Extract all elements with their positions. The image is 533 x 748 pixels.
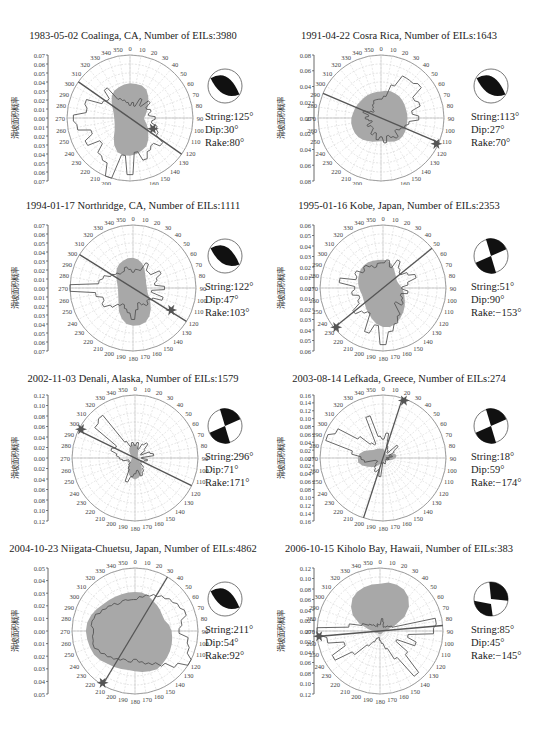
angle-tick-label: 170 [142,696,152,703]
angle-tick-label: 240 [316,150,326,157]
angle-tick-label: 270 [60,455,70,462]
angle-tick-label: 0 [379,45,382,52]
angle-tick-label: 230 [75,329,85,336]
angle-tick-label: 270 [305,628,315,635]
angle-tick-label: 260 [307,127,317,134]
angle-tick-label: 140 [175,508,185,515]
focal-mechanism-params: String:51°Dip:90°Rake:−153° [471,280,521,319]
panel-kobe: 1995-01-16 Kobe, Japan, Number of EILs:2… [266,185,532,370]
angle-tick-label: 120 [191,490,201,497]
y-tick-label: 0.04 [300,243,312,250]
y-tick-label: 0.12 [300,691,311,698]
angle-tick-label: 290 [309,604,319,611]
angle-tick-label: 10 [392,216,399,223]
y-tick-label: 0.06 [300,659,312,666]
focal-mechanism-params: String:18°Dip:59°Rake:−174° [471,450,521,489]
y-tick-label: 0.02 [300,264,311,271]
y-tick-label: 0.14 [300,399,312,406]
y-tick-label: 0.04 [34,434,46,441]
angle-tick-label: 70 [444,91,451,98]
landslide-area-fill [116,258,151,326]
focal-dip: Dip:71° [205,463,254,476]
angle-tick-label: 90 [448,115,455,122]
angle-tick-label: 220 [80,168,90,175]
angle-tick-label: 90 [447,628,454,635]
focal-dip: Dip:45° [471,636,521,649]
angle-tick-label: 320 [330,574,340,581]
angle-tick-label: 290 [312,431,322,438]
angle-tick-label: 130 [432,329,442,336]
angle-tick-label: 90 [197,115,204,122]
angle-tick-label: 180 [128,355,138,362]
angle-tick-label: 30 [413,54,420,61]
angle-tick-label: 120 [191,663,201,670]
angle-tick-label: 110 [442,138,452,145]
angle-tick-label: 140 [423,508,433,515]
angle-tick-label: 40 [177,401,184,408]
angle-tick-label: 240 [70,663,80,670]
y-tick-label: 0.12 [34,392,45,399]
chart-title: 2006-10-15 Kiholo Bay, Hawaii, Number of… [266,543,532,554]
y-tick-label: 0.02 [34,465,45,472]
angle-tick-label: 50 [431,70,438,77]
y-tick-label: 0.12 [300,502,311,509]
angle-tick-label: 50 [185,583,192,590]
y-tick-label: 0.02 [34,602,45,609]
angle-tick-label: 240 [315,663,325,670]
y-tick-label: 0.02 [300,306,311,313]
angle-tick-label: 270 [58,285,68,292]
focal-dip: Dip:59° [471,463,521,476]
focal-strike: String:113° [471,110,519,123]
angle-tick-label: 70 [198,604,205,611]
y-tick-label: 0.10 [300,575,311,582]
angle-tick-label: 80 [199,272,206,279]
angle-tick-label: 130 [179,159,189,166]
angle-tick-label: 290 [310,91,320,98]
epicenter-star-icon [97,678,109,688]
angle-tick-label: 300 [68,250,78,257]
rose-diagram: 0.070.060.050.040.030.020.010.000.010.02… [0,185,266,370]
angle-tick-label: 70 [446,261,453,268]
angle-tick-label: 300 [65,80,75,87]
angle-tick-label: 160 [399,693,409,700]
angle-tick-label: 50 [185,410,192,417]
angle-tick-label: 20 [402,49,409,56]
angle-tick-label: 70 [446,431,453,438]
angle-tick-label: 160 [154,693,164,700]
angle-tick-label: 270 [308,285,318,292]
angle-tick-label: 230 [325,499,335,506]
angle-tick-label: 40 [423,61,430,68]
angle-tick-label: 20 [404,219,411,226]
angle-tick-label: 80 [446,615,453,622]
focal-rake: Rake:92° [205,649,253,662]
y-tick-label: 0.01 [34,276,45,283]
y-tick-label: 0.12 [300,407,311,414]
angle-tick-label: 210 [340,688,350,695]
angle-tick-label: 20 [404,389,411,396]
y-tick-label: 0.04 [34,476,46,483]
angle-tick-label: 270 [60,628,70,635]
y-tick-label: 0.14 [300,510,312,517]
y-axis-label: 滑坡面积概率 [10,436,20,479]
y-tick-label: 0.05 [300,232,311,239]
angle-tick-label: 150 [413,345,423,352]
angle-tick-label: 20 [156,562,163,569]
angle-tick-label: 100 [447,297,457,304]
angle-tick-label: 180 [130,525,140,532]
angle-tick-label: 100 [445,127,455,134]
angle-tick-label: 120 [437,150,447,157]
y-tick-label: 0.05 [34,330,45,337]
angle-tick-label: 330 [340,567,350,574]
panel-kiholo: 2006-10-15 Kiholo Bay, Hawaii, Number of… [266,555,532,740]
angle-tick-label: 0 [131,215,134,222]
y-tick-label: 0.12 [300,565,311,572]
angle-tick-label: 60 [192,420,199,427]
angle-tick-label: 150 [160,175,170,182]
y-tick-label: 0.03 [34,258,45,265]
angle-tick-label: 330 [343,394,353,401]
angle-tick-label: 30 [415,394,422,401]
focal-rake: Rake:171° [205,476,254,489]
angle-tick-label: 30 [167,394,174,401]
angle-tick-label: 220 [331,168,341,175]
y-tick-label: 0.04 [300,146,312,153]
